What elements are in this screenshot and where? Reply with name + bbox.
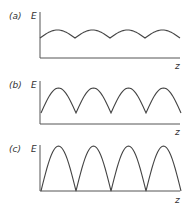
panel-a-axes (40, 12, 180, 58)
panel-a-y-label: E (31, 11, 37, 21)
diagram-canvas: (a) E z (b) E z (c) E z (0, 0, 191, 209)
panel-b-x-label: z (174, 127, 180, 137)
panel-a: (a) E z (9, 11, 180, 71)
panel-b: (b) E z (9, 80, 181, 137)
panel-b-axes (40, 81, 180, 124)
panel-b-y-label: E (31, 80, 37, 90)
panel-c-label: (c) (9, 144, 21, 154)
panel-c-y-label: E (31, 144, 37, 154)
panel-a-x-label: z (174, 61, 180, 71)
panel-a-label: (a) (9, 11, 22, 21)
panel-c-axes (40, 145, 180, 191)
panel-c-curve (41, 146, 181, 191)
panel-a-curve (40, 30, 180, 38)
panel-c-x-label: z (174, 195, 180, 205)
panel-b-curve (41, 88, 181, 113)
panel-b-label: (b) (9, 80, 22, 90)
panel-c: (c) E z (9, 144, 181, 205)
